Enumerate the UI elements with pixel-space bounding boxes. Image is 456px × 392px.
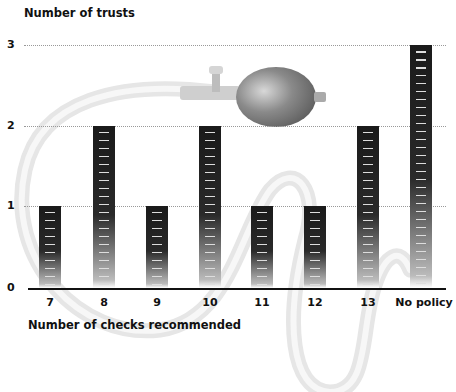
bar-12 <box>304 206 326 288</box>
bar-10 <box>199 126 221 288</box>
x-tick-no-policy: No policy <box>391 296 456 309</box>
gridline-2 <box>24 126 446 127</box>
y-axis-title: Number of trusts <box>24 6 135 20</box>
y-tick-0: 0 <box>7 281 15 294</box>
bar-9 <box>146 206 168 288</box>
bar-11 <box>251 206 273 288</box>
bar-13 <box>357 126 379 288</box>
x-tick-11: 11 <box>232 296 292 309</box>
y-tick-2: 2 <box>7 119 15 132</box>
x-axis-line <box>28 288 446 290</box>
resuscitator-tube-illustration <box>0 0 456 392</box>
x-tick-8: 8 <box>74 296 134 309</box>
bar-8 <box>93 126 115 288</box>
x-tick-7: 7 <box>20 296 80 309</box>
bar-7 <box>39 206 61 288</box>
bar-no-policy <box>410 45 432 288</box>
x-tick-13: 13 <box>338 296 398 309</box>
x-axis-title: Number of checks recommended <box>28 318 241 332</box>
gridline-1 <box>24 206 446 207</box>
y-tick-3: 3 <box>7 38 15 51</box>
y-tick-1: 1 <box>7 199 15 212</box>
x-tick-9: 9 <box>127 296 187 309</box>
x-tick-12: 12 <box>285 296 345 309</box>
x-tick-10: 10 <box>180 296 240 309</box>
gridline-3 <box>24 45 446 46</box>
